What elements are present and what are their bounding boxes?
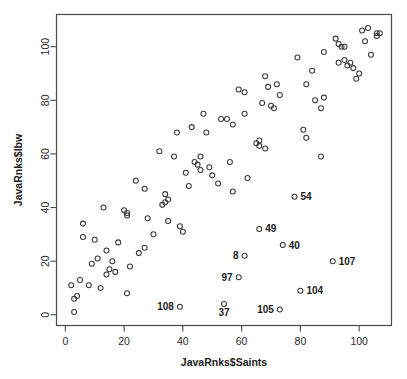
y-tick-label: 100 [40,38,52,56]
figure-background [0,0,407,379]
point-label: 8 [233,250,239,261]
x-tick-label: 80 [295,335,307,347]
y-tick-label: 60 [40,148,52,160]
point-label: 49 [265,223,277,234]
y-tick-label: 0 [40,312,52,318]
y-axis-title: JavaRnks$lbw [12,133,24,206]
point-label: 40 [289,240,301,251]
scatter-plot-figure: 020406080100 020406080100 54494010710410… [0,0,407,379]
point-label: 37 [218,307,230,318]
point-label: 97 [222,272,234,283]
y-tick-label: 20 [40,255,52,267]
point-label: 54 [301,191,313,202]
point-label: 108 [157,301,174,312]
point-label: 107 [339,256,356,267]
y-tick-label: 80 [40,94,52,106]
x-axis-title: JavaRnks$Saints [181,356,268,368]
x-tick-label: 60 [236,335,248,347]
scatter-plot-canvas: 020406080100 020406080100 54494010710410… [0,0,407,379]
x-tick-label: 0 [62,335,68,347]
x-tick-label: 100 [350,335,368,347]
x-tick-label: 20 [118,335,130,347]
point-label: 104 [306,285,323,296]
x-tick-label: 40 [177,335,189,347]
y-tick-label: 40 [40,202,52,214]
point-label: 105 [257,304,274,315]
